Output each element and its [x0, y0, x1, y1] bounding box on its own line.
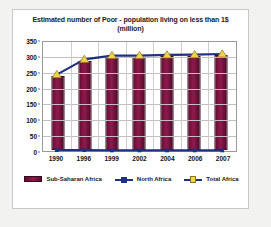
y-axis-tick-mark: [38, 120, 40, 121]
y-axis-tick-label: 150: [26, 101, 37, 108]
legend-swatch-bar-icon: [24, 176, 42, 182]
legend-square-marker-icon: [121, 177, 127, 183]
y-axis-tick-label: 300: [26, 53, 37, 60]
y-axis-tick-mark: [38, 72, 40, 73]
x-axis-tick-label: 1996: [70, 155, 98, 167]
chart-card: Estimated number of Poor - population li…: [12, 9, 249, 209]
legend-label: North Africa: [137, 176, 171, 182]
y-axis-tick-label: 350: [26, 38, 37, 45]
x-axis-tick-label: 2007: [209, 155, 237, 167]
chart-title-line2: (million): [19, 24, 242, 33]
legend-triangle-marker-icon: [190, 176, 196, 183]
y-axis-tick-label: 200: [26, 85, 37, 92]
x-axis-tick-label: 2006: [181, 155, 209, 167]
marker-square: [55, 148, 59, 152]
y-axis-tick-mark: [38, 41, 40, 42]
legend-item[interactable]: Sub-Saharan Africa: [24, 176, 101, 182]
chart-page: Estimated number of Poor - population li…: [0, 0, 271, 227]
y-axis-tick-mark: [38, 56, 40, 57]
marker-square: [193, 149, 197, 153]
x-axis-tick-label: 1990: [42, 155, 70, 167]
marker-square: [220, 149, 224, 153]
x-axis-tick-label: 2004: [153, 155, 181, 167]
y-axis-tick-mark: [38, 136, 40, 137]
y-axis-tick-mark: [38, 152, 40, 153]
x-axis-tick-label: 2002: [126, 155, 154, 167]
legend-label: Total Africa: [206, 176, 238, 182]
legend-item[interactable]: North Africa: [115, 176, 171, 183]
y-axis: 050100150200250300350: [13, 41, 40, 152]
y-axis-tick-label: 50: [30, 133, 37, 140]
line-series-overlay: [42, 41, 237, 152]
legend-item[interactable]: Total Africa: [184, 176, 238, 183]
y-axis-tick-label: 100: [26, 117, 37, 124]
legend-swatch-line-icon: [184, 176, 202, 183]
plot-wrap: [42, 41, 237, 152]
legend-label: Sub-Saharan Africa: [46, 176, 101, 182]
y-axis-tick-label: 250: [26, 69, 37, 76]
y-axis-tick-mark: [38, 88, 40, 89]
y-axis-tick-mark: [38, 104, 40, 105]
chart-title: Estimated number of Poor - population li…: [19, 15, 242, 33]
x-axis: 1990199619992002200420062007: [42, 155, 237, 167]
marker-square: [165, 149, 169, 153]
x-axis-tick-label: 1999: [98, 155, 126, 167]
marker-square: [138, 149, 142, 153]
marker-square: [110, 149, 114, 153]
chart-legend: Sub-Saharan AfricaNorth AfricaTotal Afri…: [25, 172, 238, 186]
marker-square: [82, 148, 86, 152]
y-axis-tick-label: 0: [33, 149, 37, 156]
legend-swatch-line-icon: [115, 176, 133, 183]
chart-title-line1: Estimated number of Poor - population li…: [19, 15, 242, 24]
